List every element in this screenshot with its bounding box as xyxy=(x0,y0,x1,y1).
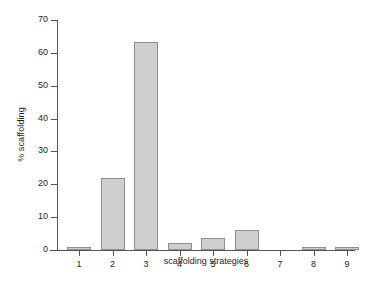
y-tick-label: 20 xyxy=(38,178,48,189)
bar-2[interactable] xyxy=(101,178,125,250)
y-tick-label: 40 xyxy=(38,113,48,124)
y-tick-label: 10 xyxy=(38,211,48,222)
bar-6[interactable] xyxy=(235,230,259,250)
x-axis-title: scaffolding strategies xyxy=(57,255,355,267)
y-tick-10: 10 xyxy=(51,217,57,218)
bar-chart-figure: % scaffolding 010203040506070 123456789 … xyxy=(0,0,371,295)
y-tick-label: 50 xyxy=(38,80,48,91)
y-axis-title: % scaffolding xyxy=(14,12,28,257)
y-tick-40: 40 xyxy=(51,119,57,120)
y-tick-50: 50 xyxy=(51,86,57,87)
bar-8[interactable] xyxy=(302,247,326,250)
y-tick-label: 60 xyxy=(38,47,48,58)
y-axis-line xyxy=(57,20,58,251)
bar-9[interactable] xyxy=(335,247,359,250)
y-tick-20: 20 xyxy=(51,184,57,185)
plot-area: 010203040506070 123456789 xyxy=(57,20,355,250)
y-tick-60: 60 xyxy=(51,53,57,54)
y-tick-70: 70 xyxy=(51,20,57,21)
bar-1[interactable] xyxy=(67,247,91,250)
bar-4[interactable] xyxy=(168,243,192,250)
bar-5[interactable] xyxy=(201,238,225,250)
x-axis-line xyxy=(50,250,355,251)
y-tick-30: 30 xyxy=(51,151,57,152)
y-tick-0: 0 xyxy=(51,250,57,251)
y-tick-label: 30 xyxy=(38,145,48,156)
bar-3[interactable] xyxy=(134,42,158,250)
y-tick-label: 70 xyxy=(38,14,48,25)
y-tick-label: 0 xyxy=(43,244,48,255)
